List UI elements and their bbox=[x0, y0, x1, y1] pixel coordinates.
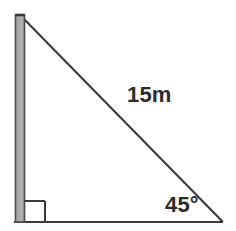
vertical-wall-rect bbox=[16, 15, 25, 223]
right-triangle-diagram: 15m 45° bbox=[0, 0, 236, 231]
hypotenuse-length-label: 15m bbox=[127, 84, 172, 106]
angle-measure-label: 45° bbox=[165, 194, 199, 216]
hypotenuse-line bbox=[20, 15, 222, 221]
triangle-figure bbox=[0, 0, 236, 231]
